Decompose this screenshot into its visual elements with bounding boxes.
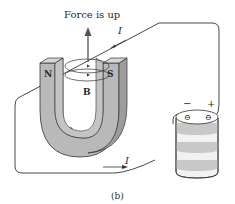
force-arrow (85, 27, 92, 62)
battery-negative-label: − (183, 98, 191, 109)
battery-negative-terminal: ⊖ (184, 113, 191, 122)
south-pole-label: S (107, 69, 114, 79)
field-label: B (83, 87, 91, 97)
current-label-top: I (117, 25, 123, 36)
current-label-bottom: I (124, 155, 130, 166)
battery-band-3 (176, 160, 218, 171)
north-pole-label: N (44, 69, 52, 79)
battery-positive-terminal: ⊖ (205, 113, 212, 122)
figure-caption: (b) (111, 191, 124, 201)
magnet-inner-side (55, 58, 103, 138)
motor-force-diagram: Force is up I I N S B − + ⊖ ⊖ (b) (0, 0, 235, 204)
battery-band-2 (176, 142, 218, 153)
battery-band-1 (176, 123, 218, 135)
force-label: Force is up (64, 9, 120, 20)
battery-positive-label: + (207, 98, 215, 109)
current-arrow-top (110, 40, 126, 49)
